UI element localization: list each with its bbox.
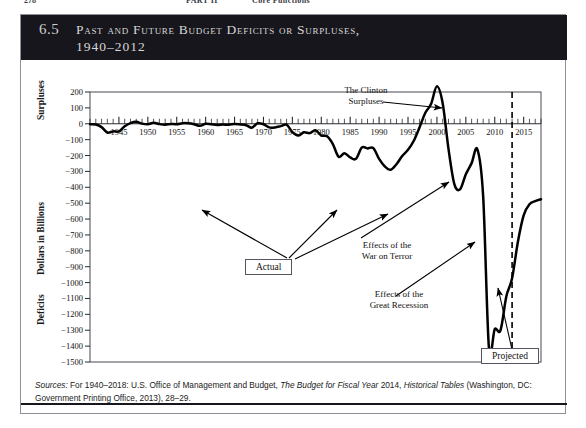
annotation-actual-label: Actual bbox=[256, 262, 281, 272]
y-tick-label: −1100 bbox=[43, 293, 83, 303]
x-tick-label: 2015 bbox=[507, 127, 541, 137]
annotation-recession-line1: Effects of the bbox=[375, 289, 423, 299]
y-tick-label: −400 bbox=[43, 182, 83, 192]
running-head-section: Core Functions bbox=[252, 0, 310, 5]
callout-arrow-group bbox=[202, 102, 513, 354]
plot-region: Surpluses Dollars in Billions Deficits 2… bbox=[21, 60, 567, 370]
y-tick-label: −1200 bbox=[43, 309, 83, 319]
running-head-part: PART II bbox=[186, 0, 218, 5]
y-tick-label: −1000 bbox=[43, 278, 83, 288]
source-italic-a: The Budget for Fiscal Year bbox=[280, 380, 378, 390]
y-tick-label: −1500 bbox=[43, 357, 83, 367]
source-text-a: For 1940–2018: U.S. Office of Management… bbox=[68, 380, 280, 390]
y-tick-label: −500 bbox=[43, 198, 83, 208]
y-tick-label: −1300 bbox=[43, 325, 83, 335]
figure-title-line1: Past and Future Budget Deficits or Surpl… bbox=[76, 22, 360, 37]
figure-number: 6.5 bbox=[39, 21, 59, 38]
figure-title-line2: 1940–2012 bbox=[76, 39, 146, 54]
figure-title-banner: 6.5 Past and Future Budget Deficits or S… bbox=[21, 15, 567, 60]
y-tick-label: −200 bbox=[43, 151, 83, 161]
y-tick-label: −600 bbox=[43, 214, 83, 224]
y-tick-label: −800 bbox=[43, 246, 83, 256]
y-tick-label: −300 bbox=[43, 166, 83, 176]
source-italic-b: Historical Tables bbox=[404, 380, 465, 390]
y-tick-label: 200 bbox=[43, 87, 83, 97]
budget-deficit-line-chart bbox=[21, 60, 567, 370]
figure-container: 6.5 Past and Future Budget Deficits or S… bbox=[20, 14, 566, 414]
annotation-great-recession: Effects of the Great Recession bbox=[347, 289, 451, 311]
annotation-war-line2: War on Terror bbox=[362, 251, 412, 261]
annotation-recession-line2: Great Recession bbox=[370, 300, 429, 310]
y-tick-label: 0 bbox=[43, 119, 83, 129]
annotation-clinton-line1: The Clinton bbox=[344, 85, 387, 95]
y-tick-label: −100 bbox=[43, 135, 83, 145]
arrow-war-on-terror bbox=[361, 182, 449, 238]
annotation-war-on-terror: Effects of the War on Terror bbox=[339, 240, 435, 262]
y-tick-label: 100 bbox=[43, 103, 83, 113]
bottom-rule bbox=[21, 403, 567, 405]
y-tick-label: −700 bbox=[43, 230, 83, 240]
page-folio: 278 bbox=[24, 0, 36, 5]
y-axis-tick-marks bbox=[85, 92, 90, 362]
source-note: Sources: For 1940–2018: U.S. Office of M… bbox=[21, 373, 567, 404]
annotation-projected-box: Projected bbox=[481, 348, 539, 364]
y-tick-label: −900 bbox=[43, 262, 83, 272]
annotation-clinton-line2: Surpluses bbox=[348, 96, 383, 106]
annotation-war-line1: Effects of the bbox=[363, 240, 411, 250]
source-text-b: 2014, bbox=[378, 380, 403, 390]
arrow-actual-left bbox=[202, 210, 287, 258]
annotation-actual-box: Actual bbox=[245, 259, 292, 275]
figure-title: Past and Future Budget Deficits or Surpl… bbox=[76, 21, 546, 55]
y-tick-label: −1400 bbox=[43, 341, 83, 351]
running-head: 278 PART II Core Functions bbox=[0, 0, 586, 8]
annotation-clinton-surpluses: The Clinton Surpluses bbox=[321, 85, 411, 107]
source-label: Sources: bbox=[35, 380, 68, 390]
annotation-projected-label: Projected bbox=[492, 351, 528, 361]
